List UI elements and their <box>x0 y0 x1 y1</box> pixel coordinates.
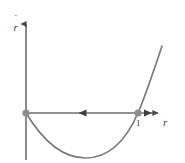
fixed-point-origin <box>22 109 29 116</box>
r-axis-label: r <box>163 116 168 128</box>
rdot-axis-label: r <box>14 21 19 33</box>
parabola-curve <box>26 46 162 158</box>
flow-arrow-right <box>144 109 152 116</box>
phase-plot-svg: ˙ r r 1 <box>0 0 185 163</box>
fixed-point-one <box>134 109 141 116</box>
x-tick-label-one: 1 <box>136 118 141 128</box>
phase-plot-figure: ˙ r r 1 <box>0 0 185 163</box>
flow-arrow-left <box>79 109 87 116</box>
